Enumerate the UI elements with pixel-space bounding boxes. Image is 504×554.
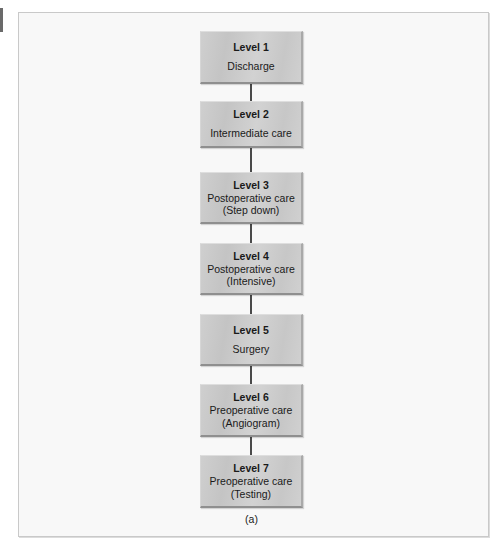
level-2-desc: Intermediate care <box>210 127 292 140</box>
level-2-box: Level 2 Intermediate care <box>200 101 303 148</box>
level-5-desc: Surgery <box>233 343 270 356</box>
level-1-title: Level 1 <box>233 41 269 54</box>
figure-caption: (a) <box>200 513 303 525</box>
connector-3-4 <box>250 224 252 243</box>
level-1-desc: Discharge <box>227 60 274 73</box>
connector-2-3 <box>250 148 252 172</box>
level-6-desc-line2: (Angiogram) <box>222 417 280 430</box>
level-6-desc-line1: Preoperative care <box>210 404 293 417</box>
level-7-box: Level 7 Preoperative care (Testing) <box>200 455 303 508</box>
connector-6-7 <box>250 437 252 455</box>
level-6-title: Level 6 <box>233 391 269 404</box>
level-3-desc-line2: (Step down) <box>223 204 280 217</box>
level-4-box: Level 4 Postoperative care (Intensive) <box>200 243 303 295</box>
level-1-box: Level 1 Discharge <box>200 31 303 84</box>
connector-4-5 <box>250 295 252 314</box>
level-7-desc-line1: Preoperative care <box>210 475 293 488</box>
level-4-desc-line1: Postoperative care <box>207 263 295 276</box>
level-4-desc-line2: (Intensive) <box>226 275 275 288</box>
connector-1-2 <box>250 84 252 101</box>
level-4-title: Level 4 <box>233 250 269 263</box>
level-2-title: Level 2 <box>233 108 269 121</box>
connector-5-6 <box>250 366 252 384</box>
level-6-box: Level 6 Preoperative care (Angiogram) <box>200 384 303 437</box>
page-tab-marker <box>0 8 3 32</box>
level-3-box: Level 3 Postoperative care (Step down) <box>200 172 303 224</box>
level-3-title: Level 3 <box>233 179 269 192</box>
level-3-desc-line1: Postoperative care <box>207 192 295 205</box>
level-5-box: Level 5 Surgery <box>200 314 303 366</box>
level-7-desc-line2: (Testing) <box>231 488 271 501</box>
level-7-title: Level 7 <box>233 462 269 475</box>
level-5-title: Level 5 <box>233 324 269 337</box>
